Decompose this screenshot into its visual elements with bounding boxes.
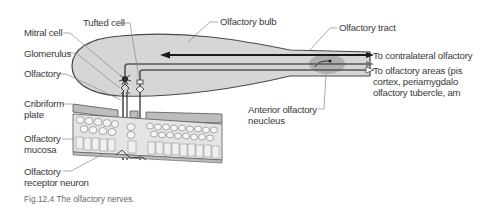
label-olfactory-tract: Olfactory tract [339, 22, 396, 33]
label-olfactory-receptor-neuron: Olfactory receptor neuron [24, 166, 89, 188]
figure-caption: Fig.12.4 The olfactory nerves. [24, 194, 135, 204]
label-glomerulus: Glomerulus [24, 48, 71, 59]
label-olfactory: Olfactory [24, 68, 61, 79]
label-cribriform-plate: Cribriform plate [24, 98, 64, 120]
label-olfactory-mucosa: Olfactory mucosa [24, 133, 61, 155]
label-olfactory-bulb: Olfactory bulb [220, 16, 276, 27]
label-to-olfactory-areas: To olfactory areas (pis cortex, periamyg… [373, 65, 462, 98]
label-tufted-cell: Tufted cell [83, 17, 125, 28]
label-anterior-olfactory-nucleus: Anterior olfactory neucleus [248, 104, 317, 126]
label-to-contralateral: To contralateral olfactory [373, 50, 472, 61]
label-mitral-cell: Mitral cell [24, 27, 62, 38]
